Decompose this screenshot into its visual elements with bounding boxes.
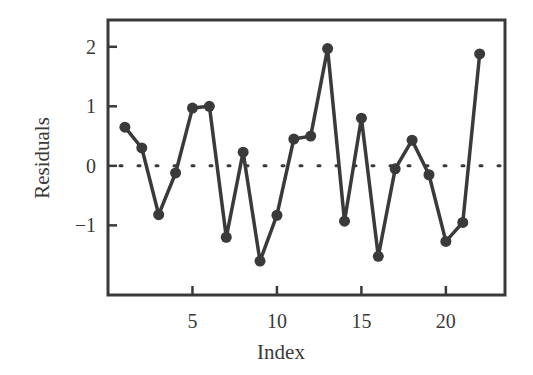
residual-line [125,49,480,262]
x-tick-label: 10 [267,310,287,332]
data-point [457,217,468,228]
data-point [238,147,249,158]
data-point [136,142,147,153]
y-tick-label: 0 [86,155,96,177]
data-point [119,122,130,133]
data-point [373,251,384,262]
data-point [440,236,451,247]
data-point [390,163,401,174]
plot-frame [108,20,505,295]
data-point [407,135,418,146]
data-point [271,210,282,221]
data-point [170,167,181,178]
data-point [255,256,266,267]
data-point [288,134,299,145]
data-point [221,232,232,243]
residual-plot: 5101520−1012 Index Residuals [0,0,533,375]
y-tick-label: 2 [86,36,96,58]
x-tick-label: 5 [187,310,197,332]
data-point [322,43,333,54]
x-tick-label: 15 [351,310,371,332]
data-point [153,209,164,220]
y-tick-label: 1 [86,95,96,117]
data-point [356,113,367,124]
x-axis-title: Index [257,340,305,364]
data-point [204,101,215,112]
x-tick-label: 20 [436,310,456,332]
data-point [305,131,316,142]
data-point [474,48,485,59]
data-point [339,216,350,227]
y-axis-title: Residuals [30,117,54,199]
data-point [187,103,198,114]
data-point [423,169,434,180]
y-tick-label: −1 [75,214,96,236]
